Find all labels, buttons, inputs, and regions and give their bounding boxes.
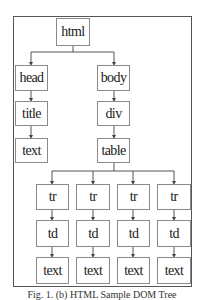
node-tr-4: tr	[157, 184, 191, 210]
node-div: div	[97, 101, 130, 126]
node-td-4: td	[157, 220, 191, 247]
node-td-text-1: text	[36, 257, 69, 284]
node-head-text: text	[15, 138, 48, 163]
node-head: head	[15, 65, 48, 91]
node-tr-3: tr	[117, 184, 150, 210]
node-td-text-2: text	[76, 257, 110, 284]
node-tr-1: tr	[36, 184, 69, 210]
node-table: table	[97, 138, 130, 163]
node-td-text-3: text	[117, 257, 150, 284]
node-td-1: td	[36, 220, 69, 247]
node-body: body	[97, 65, 130, 91]
node-td-text-4: text	[157, 257, 191, 284]
node-title: title	[15, 101, 48, 126]
node-html: html	[56, 18, 90, 46]
node-td-3: td	[117, 220, 150, 247]
node-tr-2: tr	[76, 184, 110, 210]
figure-caption: Fig. 1. (b) HTML Sample DOM Tree	[0, 289, 204, 300]
node-td-2: td	[76, 220, 110, 247]
